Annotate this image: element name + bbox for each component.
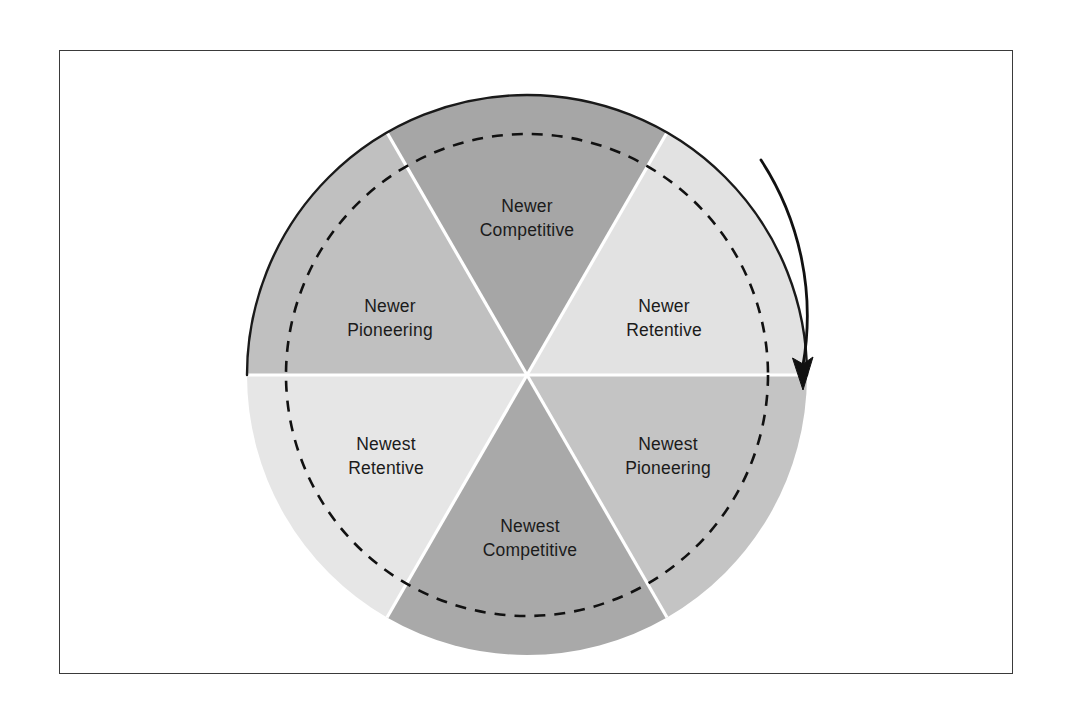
label-newest-pioneering-line2: Pioneering xyxy=(625,458,711,478)
label-newest-competitive-line2: Competitive xyxy=(483,540,578,560)
label-newer-retentive-line1: Newer xyxy=(638,296,690,316)
label-newer-competitive-line1: Newer xyxy=(501,196,553,216)
label-newer-competitive-line2: Competitive xyxy=(480,220,575,240)
label-newest-pioneering-line1: Newest xyxy=(638,434,698,454)
wheel-diagram: Newer Competitive Newer Retentive Newest… xyxy=(0,0,1065,708)
label-newer-pioneering-line1: Newer xyxy=(364,296,416,316)
figure-root: Newer Competitive Newer Retentive Newest… xyxy=(0,0,1065,708)
label-newer-pioneering-line2: Pioneering xyxy=(347,320,433,340)
label-newer-retentive-line2: Retentive xyxy=(626,320,702,340)
label-newest-retentive-line1: Newest xyxy=(356,434,416,454)
label-newest-retentive-line2: Retentive xyxy=(348,458,424,478)
label-newest-competitive-line1: Newest xyxy=(500,516,560,536)
